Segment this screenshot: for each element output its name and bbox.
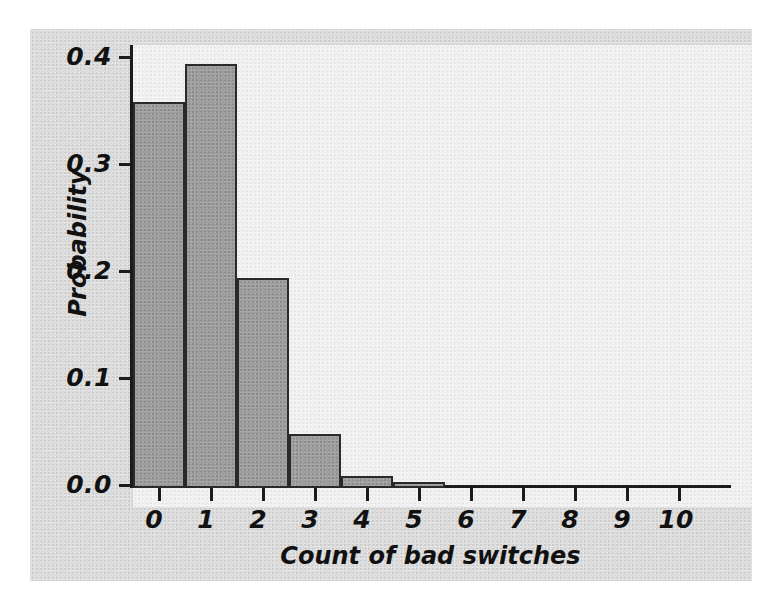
bar-4 — [341, 476, 393, 488]
y-axis-title: Probability — [64, 133, 92, 353]
x-tick-label-4: 4 — [332, 505, 392, 534]
y-tick-mark — [119, 163, 131, 166]
bar-chart-plot-area: 0.4 0.3 0.2 0.1 0.0 0 1 2 3 — [30, 29, 752, 581]
y-tick-label-0.1: 0.1 — [42, 363, 112, 392]
x-tick-mark — [210, 488, 213, 501]
bar-3 — [289, 434, 341, 488]
bar-1 — [185, 64, 237, 488]
figure-panel: 0.4 0.3 0.2 0.1 0.0 0 1 2 3 — [30, 29, 752, 581]
x-tick-label-9: 9 — [592, 505, 652, 534]
x-tick-mark — [522, 488, 525, 501]
y-tick-label-0.4: 0.4 — [42, 42, 112, 71]
x-axis-title: Count of bad switches — [130, 542, 731, 570]
y-tick-mark — [119, 270, 131, 273]
x-tick-label-0: 0 — [124, 505, 184, 534]
x-tick-mark — [678, 488, 681, 501]
x-tick-mark — [574, 488, 577, 501]
x-tick-label-1: 1 — [176, 505, 236, 534]
x-tick-label-3: 3 — [280, 505, 340, 534]
x-tick-mark — [262, 488, 265, 501]
x-tick-label-10: 10 — [646, 505, 706, 534]
x-tick-label-5: 5 — [384, 505, 444, 534]
x-tick-label-7: 7 — [488, 505, 548, 534]
x-tick-mark — [470, 488, 473, 501]
bar-0 — [133, 102, 185, 488]
x-tick-mark — [158, 488, 161, 501]
x-tick-label-6: 6 — [436, 505, 496, 534]
x-tick-mark — [418, 488, 421, 501]
scanned-page: 0.4 0.3 0.2 0.1 0.0 0 1 2 3 — [0, 0, 783, 606]
bar-2 — [237, 278, 289, 488]
y-tick-label-0.0: 0.0 — [42, 470, 112, 499]
x-tick-label-2: 2 — [228, 505, 288, 534]
x-tick-mark — [626, 488, 629, 501]
y-tick-mark — [119, 377, 131, 380]
y-tick-mark — [119, 484, 131, 487]
x-tick-label-8: 8 — [540, 505, 600, 534]
x-tick-mark — [314, 488, 317, 501]
y-tick-mark — [119, 56, 131, 59]
x-tick-mark — [366, 488, 369, 501]
